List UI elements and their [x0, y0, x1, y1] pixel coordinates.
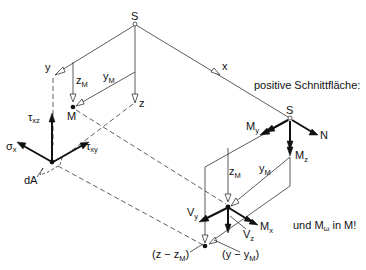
yM-arrowhead-icon — [76, 99, 84, 106]
centroid-S-section-marker — [288, 116, 292, 120]
z-axis-arrowhead-icon — [132, 94, 138, 103]
label-My: My — [246, 120, 259, 135]
tau-xy-arrow — [53, 145, 83, 162]
z-minus-zM-leader — [190, 244, 203, 252]
N-arrow — [292, 120, 312, 132]
label-N: N — [320, 129, 328, 141]
Vy-arrow — [205, 208, 227, 219]
centroid-S-top-marker — [133, 22, 137, 26]
sigma-x-arrow — [22, 145, 52, 162]
label-z-minus-zM: (z − zM) — [152, 248, 189, 263]
dA-leader-line — [37, 168, 43, 177]
label-yM-section: yM — [259, 162, 271, 177]
section-left-arrowhead-icon — [202, 235, 208, 243]
label-y-minus-yM: (y − yM) — [222, 248, 259, 263]
label-Vz: Vz — [243, 228, 254, 243]
label-y-axis: y — [45, 61, 51, 73]
label-tau-xz: τxz — [28, 111, 40, 125]
label-Mx: Mx — [260, 220, 273, 235]
labels-group: S y z x zM yM M τxz σx τxy dA positive S… — [6, 10, 360, 263]
label-Vy: Vy — [187, 206, 198, 221]
label-Mz: Mz — [295, 149, 308, 164]
label-zM-top: zM — [76, 74, 88, 89]
label-zM-section: zM — [229, 165, 241, 180]
label-S-section: S — [286, 104, 293, 116]
zM-section-arrowhead-icon — [225, 194, 231, 202]
Vy-arrowhead-icon — [199, 215, 209, 222]
label-warping-moment-note: und Mω in M! — [293, 219, 356, 233]
cross-section-force-diagram: S y z x zM yM M τxz σx τxy dA positive S… — [0, 0, 366, 270]
yM-section-arrowhead-icon — [231, 198, 239, 206]
label-positive-section: positive Schnittfläche: — [254, 79, 360, 91]
reference-axes-group — [40, 22, 288, 245]
section-geometry-group — [190, 120, 290, 252]
label-dA: dA — [24, 174, 38, 186]
label-yM-top: yM — [103, 70, 115, 85]
fibre-point-section-marker — [203, 244, 208, 249]
section-bottom-edge — [212, 186, 290, 241]
tau-xz-arrowhead-icon — [49, 113, 55, 122]
label-S-top: S — [131, 10, 138, 22]
y-axis-arrowhead-icon — [55, 67, 65, 75]
y-axis-line — [57, 25, 135, 73]
label-x-axis: x — [222, 60, 228, 72]
M-dashed-projection — [76, 110, 226, 204]
dA-dashed-projection — [58, 166, 203, 245]
label-sigma-x: σx — [6, 140, 17, 154]
shear-center-M-top-marker — [71, 105, 76, 110]
sigma-x-arrowhead-icon — [17, 142, 26, 149]
label-tau-xy: τxy — [86, 140, 98, 154]
dA-point-marker — [50, 160, 55, 165]
label-M-top: M — [67, 110, 76, 122]
zM-arrowhead-icon — [70, 94, 76, 102]
label-z-axis: z — [139, 97, 145, 109]
x-axis-arrowhead-icon — [211, 68, 220, 75]
